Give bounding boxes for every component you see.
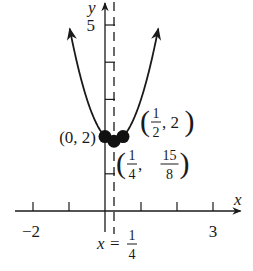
point-label-0-2: (0, 2) xyxy=(59,128,96,147)
fraction-numerator: 1 xyxy=(129,148,136,163)
labels-group: xy−235(0, 2)(12, 2)(14, 158)x=14 xyxy=(22,0,242,262)
paren-open: ( xyxy=(140,104,150,138)
fraction-numerator: 15 xyxy=(163,148,177,163)
aos-eq: = xyxy=(110,234,120,253)
x-tick-label: 3 xyxy=(209,222,218,241)
paren-close: ) xyxy=(185,104,195,138)
fraction-denominator: 4 xyxy=(129,167,136,182)
fraction-denominator: 8 xyxy=(166,167,173,182)
point-label-vertex: (14, 158) xyxy=(116,146,190,182)
point-label-half-2: (12, 2) xyxy=(140,104,195,140)
paren-open: ( xyxy=(116,146,126,180)
fraction-numerator: 1 xyxy=(153,106,160,121)
y-tick-label: 5 xyxy=(87,16,96,35)
aos-numerator: 1 xyxy=(129,228,136,243)
aos-denominator: 4 xyxy=(129,247,136,262)
label-text: , xyxy=(138,155,142,174)
x-axis-label: x xyxy=(233,190,242,209)
axis-of-symmetry-label: x=14 xyxy=(96,228,137,262)
x-tick-label: −2 xyxy=(22,222,40,241)
aos-x: x xyxy=(96,234,105,253)
label-text: , 2 xyxy=(162,113,179,132)
y-axis-label: y xyxy=(86,0,96,17)
point-2 xyxy=(117,130,130,143)
parabola-chart: xy−235(0, 2)(12, 2)(14, 158)x=14 xyxy=(0,0,253,271)
axes xyxy=(15,3,241,232)
fraction-denominator: 2 xyxy=(153,125,160,140)
paren-close: ) xyxy=(180,146,190,180)
